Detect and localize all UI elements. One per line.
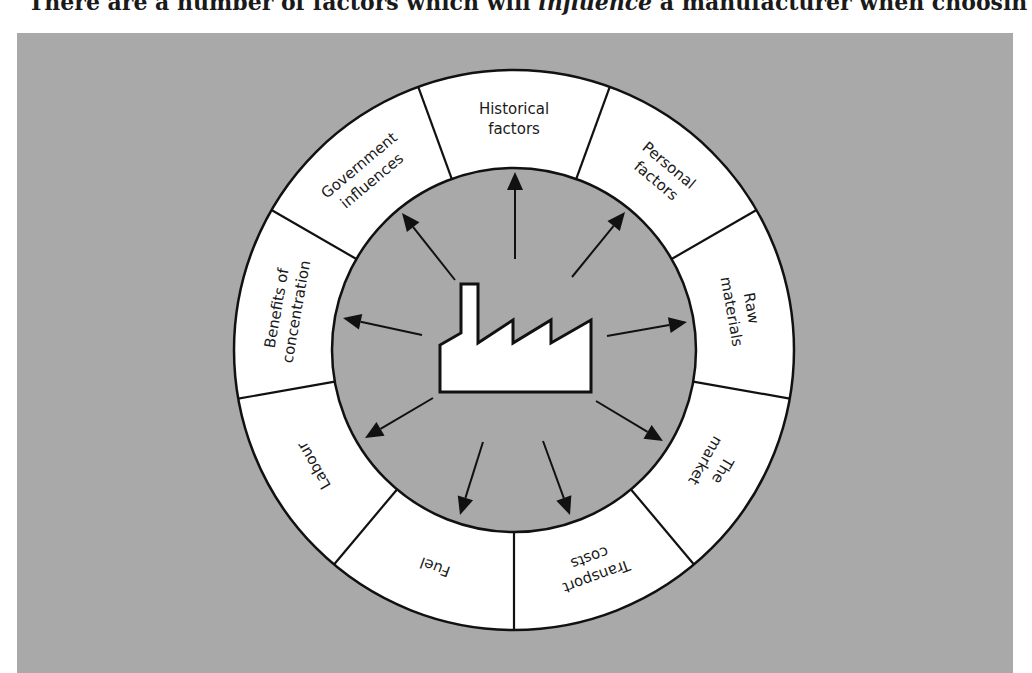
segment-label: factors: [488, 120, 540, 138]
segment-label: Historical: [479, 100, 549, 118]
